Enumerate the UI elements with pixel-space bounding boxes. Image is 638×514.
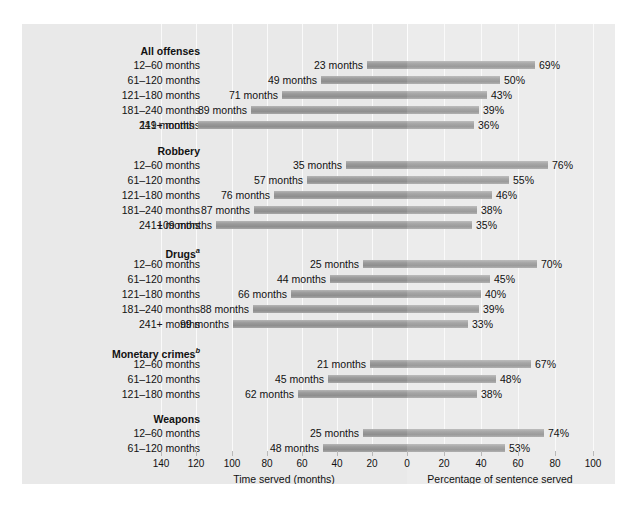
value-label-percent: 48% bbox=[500, 374, 521, 385]
value-label-percent: 70% bbox=[541, 259, 562, 270]
tick-months-80: 80 bbox=[247, 458, 287, 469]
bar-percent bbox=[407, 176, 509, 184]
group-heading-label: Robbery bbox=[157, 145, 200, 157]
bar-months bbox=[253, 305, 407, 313]
tick-percent-20: 20 bbox=[424, 458, 464, 469]
tick-months-140: 140 bbox=[141, 458, 181, 469]
value-label-percent: 67% bbox=[535, 359, 556, 370]
value-label-percent: 50% bbox=[504, 75, 525, 86]
value-label-months: 35 months bbox=[22, 160, 342, 171]
tick-months-60: 60 bbox=[282, 458, 322, 469]
bar-months bbox=[251, 106, 407, 114]
bar-months bbox=[346, 161, 407, 169]
tick-months-120: 120 bbox=[176, 458, 216, 469]
right-axis-title: Percentage of sentence served bbox=[400, 473, 600, 484]
bar-percent bbox=[407, 121, 474, 129]
value-label-months: 62 months bbox=[22, 389, 294, 400]
bar-months bbox=[328, 375, 407, 383]
value-label-percent: 55% bbox=[513, 175, 534, 186]
group-heading-weapons: Weapons bbox=[22, 414, 200, 425]
bar-percent bbox=[407, 221, 472, 229]
bar-percent bbox=[407, 161, 548, 169]
value-label-months: 44 months bbox=[22, 274, 326, 285]
bar-months bbox=[307, 176, 407, 184]
chart-rows: All offenses12–60 months23 months69%61–1… bbox=[22, 24, 615, 484]
tick-months-60-mark bbox=[302, 451, 303, 456]
bar-percent bbox=[407, 91, 487, 99]
value-label-percent: 53% bbox=[509, 443, 530, 454]
value-label-months: 87 months bbox=[22, 205, 250, 216]
bar-months bbox=[216, 221, 407, 229]
tick-months-0: 0 bbox=[387, 458, 427, 469]
bar-percent bbox=[407, 290, 481, 298]
group-heading-label: Weapons bbox=[154, 413, 200, 425]
left-axis-title: Time served (months) bbox=[184, 473, 384, 484]
value-label-months: 109 months bbox=[22, 220, 212, 231]
bar-months bbox=[291, 290, 407, 298]
bar-months bbox=[233, 320, 407, 328]
chart-figure: All offenses12–60 months23 months69%61–1… bbox=[0, 0, 638, 514]
tick-percent-40-mark bbox=[481, 451, 482, 456]
tick-months-100: 100 bbox=[212, 458, 252, 469]
group-heading-footnote: a bbox=[196, 246, 200, 255]
bar-months bbox=[321, 76, 407, 84]
tick-percent-100: 100 bbox=[573, 458, 613, 469]
tick-months-40: 40 bbox=[317, 458, 357, 469]
value-label-months: 57 months bbox=[22, 175, 303, 186]
tick-months-80-mark bbox=[267, 451, 268, 456]
value-label-months: 119 months bbox=[22, 120, 194, 131]
value-label-months: 48 months bbox=[22, 443, 319, 454]
bar-percent bbox=[407, 375, 496, 383]
value-label-percent: 46% bbox=[496, 190, 517, 201]
value-label-months: 21 months bbox=[22, 359, 366, 370]
group-heading-monetary-crimes: Monetary crimesb bbox=[22, 345, 200, 360]
bar-months bbox=[274, 191, 407, 199]
group-heading-label: All offenses bbox=[140, 45, 200, 57]
bar-months bbox=[370, 360, 407, 368]
value-label-percent: 40% bbox=[485, 289, 506, 300]
bar-percent bbox=[407, 320, 468, 328]
value-label-percent: 74% bbox=[548, 428, 569, 439]
value-label-months: 89 months bbox=[22, 105, 247, 116]
value-label-months: 88 months bbox=[22, 304, 249, 315]
value-label-months: 99 months bbox=[22, 319, 229, 330]
bar-months bbox=[367, 61, 407, 69]
value-label-percent: 76% bbox=[552, 160, 573, 171]
tick-months-20: 20 bbox=[352, 458, 392, 469]
tick-percent-40: 40 bbox=[461, 458, 501, 469]
value-label-percent: 39% bbox=[483, 304, 504, 315]
bar-months bbox=[254, 206, 407, 214]
bar-months bbox=[363, 260, 407, 268]
bar-months bbox=[330, 275, 407, 283]
bar-months bbox=[282, 91, 407, 99]
value-label-months: 49 months bbox=[22, 75, 317, 86]
tick-months-140-mark bbox=[161, 451, 162, 456]
bar-percent bbox=[407, 76, 500, 84]
bar-percent bbox=[407, 429, 544, 437]
value-label-months: 25 months bbox=[22, 259, 359, 270]
bar-percent bbox=[407, 305, 479, 313]
bar-percent bbox=[407, 206, 477, 214]
group-heading-all-offenses: All offenses bbox=[22, 46, 200, 57]
value-label-months: 76 months bbox=[22, 190, 270, 201]
tick-months-100-mark bbox=[232, 451, 233, 456]
value-label-months: 25 months bbox=[22, 428, 359, 439]
value-label-percent: 35% bbox=[476, 220, 497, 231]
plot-panel: All offenses12–60 months23 months69%61–1… bbox=[22, 24, 615, 484]
group-heading-robbery: Robbery bbox=[22, 146, 200, 157]
tick-months-20-mark bbox=[372, 451, 373, 456]
tick-percent-80-mark bbox=[555, 451, 556, 456]
bar-percent bbox=[407, 61, 535, 69]
bar-months bbox=[298, 390, 407, 398]
value-label-percent: 43% bbox=[491, 90, 512, 101]
bar-months bbox=[198, 121, 407, 129]
tick-months-40-mark bbox=[337, 451, 338, 456]
tick-percent-60: 60 bbox=[498, 458, 538, 469]
tick-percent-100-mark bbox=[593, 451, 594, 456]
bar-percent bbox=[407, 275, 490, 283]
group-heading-footnote: b bbox=[195, 346, 200, 355]
bar-months bbox=[363, 429, 407, 437]
value-label-months: 66 months bbox=[22, 289, 287, 300]
bar-percent bbox=[407, 106, 479, 114]
tick-percent-20-mark bbox=[444, 451, 445, 456]
